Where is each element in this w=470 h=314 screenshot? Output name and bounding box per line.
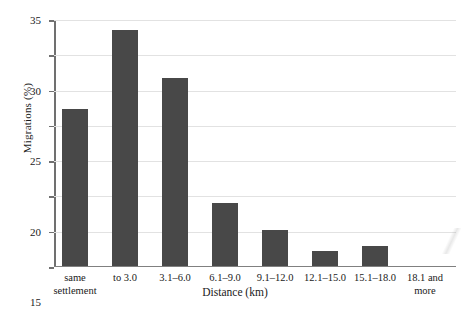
- y-tick-mark: 5: [49, 232, 54, 234]
- y-tick-mark: 15: [49, 161, 54, 163]
- bar: [362, 246, 388, 265]
- bar: [262, 230, 288, 265]
- y-axis-line: [54, 20, 56, 267]
- y-tick-mark: 35: [49, 20, 54, 22]
- gridline: [54, 20, 456, 21]
- y-tick-mark: 10: [49, 196, 54, 198]
- y-tick-mark: 25: [49, 91, 54, 93]
- y-tick-label: 35: [30, 14, 41, 26]
- x-axis-line: [54, 266, 456, 268]
- y-tick-label: 15: [30, 296, 41, 308]
- plot-area: 05101520253035 same settlementto 3.03.1–…: [54, 20, 456, 267]
- y-tick-mark: 30: [49, 55, 54, 57]
- y-tick-label: 25: [30, 155, 41, 167]
- x-axis-title: Distance (km): [0, 286, 470, 298]
- y-tick-mark: 20: [49, 126, 54, 128]
- bar: [162, 78, 188, 266]
- bar-chart-figure: Migrations (%) 05101520253035 same settl…: [0, 0, 470, 314]
- y-tick-mark: 0: [49, 267, 54, 269]
- bar: [112, 30, 138, 266]
- bar: [312, 251, 338, 266]
- y-axis-title: Migrations (%): [21, 43, 33, 193]
- bar: [212, 203, 238, 265]
- y-tick-label: 20: [30, 226, 41, 238]
- bar: [62, 109, 88, 266]
- y-tick-label: 30: [30, 85, 41, 97]
